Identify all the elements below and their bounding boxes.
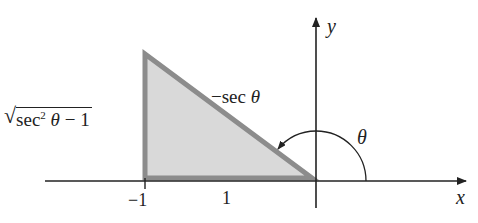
radicand: sec2 θ − 1 <box>16 107 92 129</box>
x-axis-label: x <box>456 187 465 207</box>
base-label: 1 <box>222 189 231 207</box>
sec-text: sec <box>16 109 40 130</box>
shaded-triangle <box>145 54 312 178</box>
angle-label: θ <box>357 127 367 147</box>
sqrt-theta: θ <box>46 109 60 130</box>
hypotenuse-label-text: −sec <box>211 86 251 107</box>
trig-triangle-figure: y x −sec θ √sec2 θ − 1 1 −1 θ <box>0 0 478 223</box>
tick-label-neg-one: −1 <box>128 191 147 209</box>
hypotenuse-theta: θ <box>251 86 260 107</box>
minus-one-text: − 1 <box>60 109 90 130</box>
vertical-side-label: √sec2 θ − 1 <box>4 107 92 129</box>
hypotenuse-label: −sec θ <box>211 87 260 106</box>
y-axis-label: y <box>327 16 336 36</box>
sqrt-symbol: √ <box>4 105 16 127</box>
